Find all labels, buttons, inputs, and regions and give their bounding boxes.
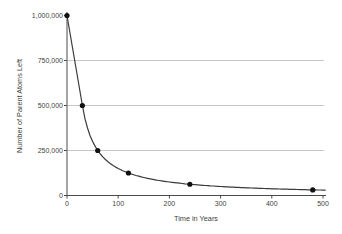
data-point (80, 103, 85, 108)
y-tick-label: 250,000 (38, 147, 63, 155)
chart-canvas (0, 0, 342, 234)
data-point (187, 182, 192, 187)
x-tick-label: 100 (106, 200, 130, 208)
x-axis-title: Time in Years (174, 214, 218, 223)
y-tick-label: 1,000,000 (32, 12, 63, 20)
data-point (310, 187, 315, 192)
data-point (126, 170, 131, 175)
radioactive-decay-chart: 0250,000500,000750,0001,000,000010020030… (0, 0, 342, 234)
x-tick-label: 200 (157, 200, 181, 208)
x-tick-label: 500 (311, 200, 335, 208)
x-tick-label: 300 (209, 200, 233, 208)
y-tick-label: 750,000 (38, 57, 63, 65)
data-point (95, 148, 100, 153)
y-axis-title: Number of Parent Atoms Left (15, 59, 24, 153)
y-tick-label: 500,000 (38, 102, 63, 110)
decay-curve (67, 16, 326, 191)
data-point (64, 13, 69, 18)
x-tick-label: 400 (260, 200, 284, 208)
y-tick-label: 0 (59, 192, 63, 200)
x-tick-label: 0 (55, 200, 79, 208)
